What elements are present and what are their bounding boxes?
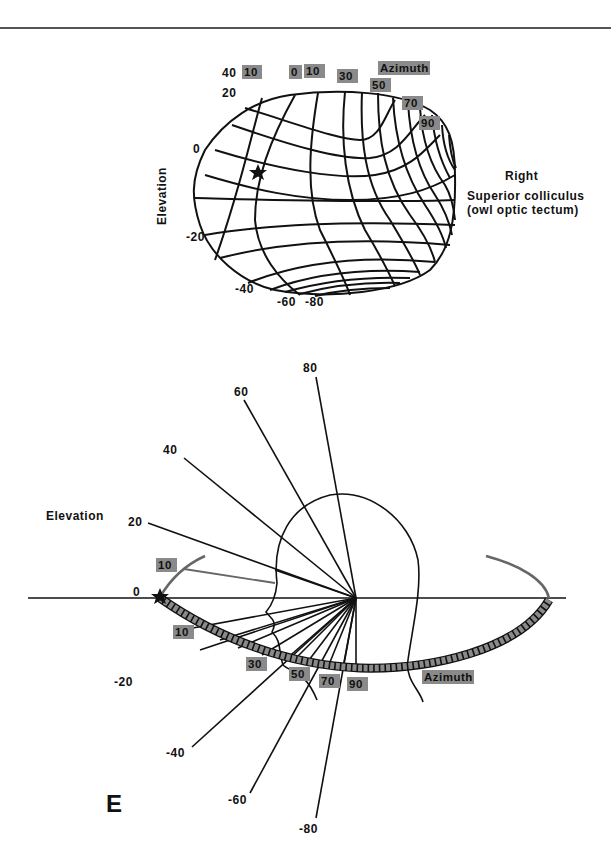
bottom-elev-tick-minus20: -20 (114, 675, 133, 689)
bottom-elev-tick-minus40: -40 (166, 746, 185, 760)
svg-text:30: 30 (339, 70, 353, 82)
svg-text:10: 10 (175, 626, 189, 638)
top-azimuth-label: Azimuth (378, 61, 430, 75)
top-azimuth-badge-50: 50 (370, 78, 391, 92)
svg-text:10: 10 (158, 559, 172, 571)
svg-text:90: 90 (421, 117, 435, 129)
top-elev-tick-20: 20 (222, 86, 236, 100)
top-azimuth-badge-70: 70 (402, 96, 423, 110)
top-azimuth-badge-10: 10 (304, 64, 325, 78)
svg-text:30: 30 (248, 658, 262, 670)
panel-letter: E (106, 790, 122, 817)
svg-text:10: 10 (306, 65, 320, 77)
bottom-elev-tick-0: 0 (133, 585, 140, 599)
top-azimuth-badge-30: 30 (337, 69, 358, 83)
bottom-elev-tick-minus80: -80 (299, 822, 318, 836)
top-azimuth-badge-10-left: 10 (242, 65, 262, 79)
tectum-map (194, 92, 456, 296)
svg-text:50: 50 (372, 79, 386, 91)
svg-text:Azimuth: Azimuth (380, 62, 429, 74)
head-diagram (28, 377, 566, 818)
top-elev-tick-minus60: -60 (277, 295, 296, 309)
top-elev-tick-minus80: -80 (305, 295, 324, 309)
svg-text:Azimuth: Azimuth (424, 671, 473, 683)
bottom-azimuth-label: Azimuth (422, 670, 474, 684)
svg-text:0: 0 (291, 66, 298, 78)
bottom-azimuth-badge-70: 70 (319, 674, 340, 688)
top-elev-tick-minus20: -20 (186, 230, 205, 244)
bottom-elev-tick-80: 80 (303, 361, 317, 375)
bottom-azimuth-badge-90: 90 (347, 677, 368, 691)
ray-80 (316, 377, 356, 598)
bottom-elev-tick-20: 20 (128, 515, 142, 529)
bottom-elev-tick-40: 40 (163, 443, 177, 457)
svg-text:70: 70 (404, 97, 418, 109)
figure-canvas: 40 20 0 -20 -40 -60 -80 10 0 10 30 50 70… (0, 0, 611, 868)
top-elev-tick-40: 40 (222, 66, 236, 80)
structure-label-line2: (owl optic tectum) (467, 203, 579, 217)
svg-text:70: 70 (321, 675, 335, 687)
bottom-elev-tick-minus60: -60 (228, 793, 247, 807)
bottom-azimuth-badge-10-lower: 10 (173, 625, 194, 639)
top-azimuth-badge-0: 0 (289, 65, 302, 79)
top-azimuth-badge-90: 90 (419, 116, 440, 130)
bottom-elevation-axis-label: Elevation (46, 509, 104, 523)
ray-40 (184, 458, 356, 598)
bottom-elev-tick-60: 60 (234, 385, 248, 399)
bottom-azimuth-badge-10-upper: 10 (156, 558, 177, 572)
bottom-azimuth-badge-30: 30 (246, 657, 267, 671)
structure-label-line1: Superior colliculus (467, 189, 585, 203)
svg-text:50: 50 (291, 668, 305, 680)
top-elevation-axis-label: Elevation (155, 167, 169, 225)
side-label: Right (505, 169, 538, 183)
ray-60 (244, 400, 356, 598)
svg-text:90: 90 (349, 678, 363, 690)
top-elev-tick-minus40: -40 (235, 282, 254, 296)
top-elev-tick-0: 0 (193, 142, 200, 156)
svg-text:10: 10 (244, 66, 258, 78)
bottom-azimuth-badge-50: 50 (289, 667, 310, 681)
